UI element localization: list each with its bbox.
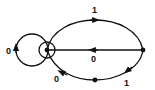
edge-a-to-b-upper	[47, 20, 143, 50]
state-diagram: 0 1 0 1 0	[0, 0, 155, 90]
node-c	[93, 78, 98, 83]
edge-b-to-c-lower	[95, 50, 143, 80]
self-loop-edge	[16, 34, 48, 66]
node-b	[141, 48, 146, 53]
bottom-right-label: 1	[124, 78, 129, 88]
middle-line-label: 0	[91, 54, 96, 64]
bottom-left-label: 0	[54, 74, 59, 84]
self-loop-label: 0	[6, 46, 11, 56]
top-arc-label: 1	[92, 5, 97, 15]
node-a	[45, 48, 50, 53]
